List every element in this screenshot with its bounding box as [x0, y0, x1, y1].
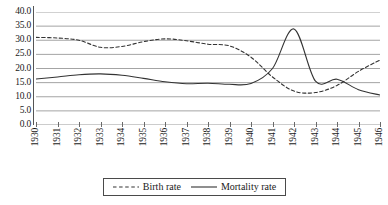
x-tick-label: 1945 [354, 128, 364, 146]
x-tick-label: 1936 [160, 128, 170, 146]
x-tick-label: 1946 [375, 128, 385, 146]
chart-legend: Birth rate Mortality rate [103, 178, 286, 196]
y-tick-label: 20.0 [15, 64, 31, 74]
x-tick-label: 1933 [96, 128, 106, 146]
x-tick-mark [165, 122, 166, 127]
x-tick-label: 1939 [225, 128, 235, 146]
y-tick-label: 15.0 [15, 78, 31, 88]
x-tick-label: 1930 [31, 128, 41, 146]
series-line-mortality-rate [36, 29, 380, 95]
y-tick-label: 40.0 [15, 7, 31, 17]
x-tick-label: 1938 [203, 128, 213, 146]
chart-container: 40.035.030.025.020.015.010.05.00.0 19301… [0, 0, 388, 205]
y-tick-label: 5.0 [20, 106, 31, 116]
x-tick-label: 1943 [311, 128, 321, 146]
plot-area [36, 12, 380, 125]
x-tick-mark [187, 122, 188, 127]
y-axis: 40.035.030.025.020.015.010.05.00.0 [0, 0, 34, 137]
y-tick-label: 30.0 [15, 36, 31, 46]
x-tick-mark [144, 122, 145, 127]
x-tick-mark [101, 122, 102, 127]
x-tick-mark [36, 122, 37, 127]
x-tick-mark [230, 122, 231, 127]
x-tick-mark [359, 122, 360, 127]
series-line-birth-rate [36, 37, 380, 93]
x-tick-mark [122, 122, 123, 127]
y-tick-label: 10.0 [15, 92, 31, 102]
x-tick-mark [58, 122, 59, 127]
legend-item-birth-rate: Birth rate [113, 182, 181, 192]
x-tick-label: 1934 [117, 128, 127, 146]
x-tick-label: 1935 [139, 128, 149, 146]
x-tick-label: 1944 [332, 128, 342, 146]
x-tick-label: 1937 [182, 128, 192, 146]
x-tick-label: 1932 [74, 128, 84, 146]
x-tick-label: 1941 [268, 128, 278, 146]
x-axis: 1930193119321933193419351936193719381939… [36, 128, 380, 173]
x-tick-label: 1931 [53, 128, 63, 146]
x-tick-mark [337, 122, 338, 127]
x-tick-mark [273, 122, 274, 127]
legend-item-mortality-rate: Mortality rate [191, 182, 276, 192]
x-tick-mark [79, 122, 80, 127]
y-tick-label: 25.0 [15, 50, 31, 60]
legend-label-mortality-rate: Mortality rate [221, 182, 276, 192]
legend-swatch-dashed-icon [113, 183, 139, 191]
x-tick-mark [251, 122, 252, 127]
x-tick-mark [294, 122, 295, 127]
x-tick-label: 1940 [246, 128, 256, 146]
x-tick-label: 1942 [289, 128, 299, 146]
chart-plot-svg [36, 12, 380, 125]
x-tick-mark [316, 122, 317, 127]
y-tick-label: 35.0 [15, 21, 31, 31]
x-tick-mark [380, 122, 381, 127]
legend-swatch-solid-icon [191, 183, 217, 191]
legend-label-birth-rate: Birth rate [143, 182, 181, 192]
x-tick-mark [208, 122, 209, 127]
y-axis-spine [33, 6, 34, 125]
